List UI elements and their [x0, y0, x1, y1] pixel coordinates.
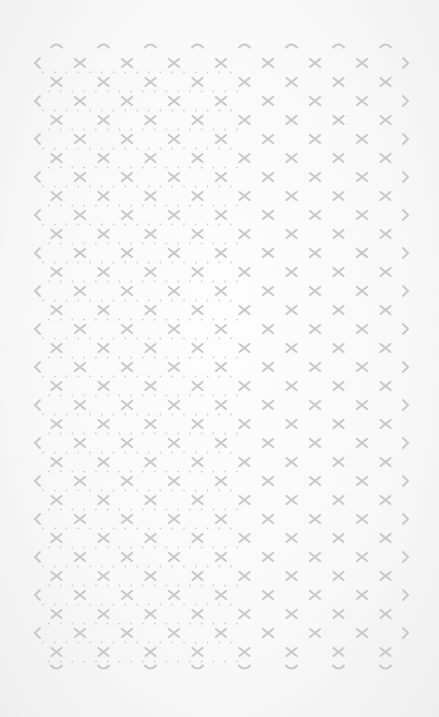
cross-mark: [75, 135, 85, 143]
cross-mark: [287, 458, 297, 466]
cross-mark: [193, 648, 203, 656]
cross-mark: [334, 192, 344, 200]
cross-mark: [310, 135, 320, 143]
cross-mark: [169, 135, 179, 143]
cross-mark: [99, 268, 109, 276]
cross-mark: [240, 306, 250, 314]
cross-mark: [146, 572, 156, 580]
cross-mark: [381, 534, 391, 542]
cross-mark: [169, 363, 179, 371]
cross-mark: [216, 363, 226, 371]
cross-mark: [240, 192, 250, 200]
cross-mark: [146, 230, 156, 238]
cross-mark: [169, 287, 179, 295]
cross-mark: [169, 97, 179, 105]
cross-mark: [381, 116, 391, 124]
cross-mark: [381, 268, 391, 276]
cross-mark: [146, 78, 156, 86]
cross-mark: [193, 154, 203, 162]
cross-mark: [240, 534, 250, 542]
cross-mark: [122, 515, 132, 523]
cross-mark: [193, 344, 203, 352]
cross-mark: [146, 610, 156, 618]
cross-mark: [287, 268, 297, 276]
cross-mark: [122, 591, 132, 599]
cross-mark: [216, 401, 226, 409]
cross-mark: [287, 496, 297, 504]
cross-mark: [310, 97, 320, 105]
cross-mark: [99, 78, 109, 86]
cross-mark: [146, 458, 156, 466]
cross-mark: [193, 534, 203, 542]
cross-mark: [310, 477, 320, 485]
cross-mark: [122, 59, 132, 67]
cross-mark: [99, 610, 109, 618]
cross-mark: [381, 458, 391, 466]
cross-mark: [287, 648, 297, 656]
cross-mark: [310, 363, 320, 371]
cross-mark: [240, 420, 250, 428]
cross-mark: [52, 344, 62, 352]
cross-mark: [75, 287, 85, 295]
cross-mark: [216, 439, 226, 447]
cross-mark: [334, 78, 344, 86]
cross-mark: [193, 192, 203, 200]
cross-mark: [381, 344, 391, 352]
cross-mark: [52, 420, 62, 428]
cross-mark: [240, 610, 250, 618]
cross-mark: [381, 192, 391, 200]
cross-mark: [52, 306, 62, 314]
cross-mark: [169, 591, 179, 599]
cross-mark: [334, 648, 344, 656]
cross-mark: [99, 192, 109, 200]
cross-mark: [287, 344, 297, 352]
cross-mark: [99, 116, 109, 124]
cross-mark: [334, 306, 344, 314]
cross-mark: [334, 496, 344, 504]
cross-mark: [357, 401, 367, 409]
cross-mark: [75, 325, 85, 333]
cross-mark: [263, 325, 273, 333]
cross-mark: [357, 97, 367, 105]
cross-mark: [357, 325, 367, 333]
cross-mark: [216, 59, 226, 67]
cross-mark: [263, 553, 273, 561]
cross-mark: [99, 420, 109, 428]
cross-mark: [381, 154, 391, 162]
cross-mark: [75, 591, 85, 599]
patterned-background: [0, 0, 439, 717]
cross-mark: [240, 496, 250, 504]
cross-mark: [334, 572, 344, 580]
cross-mark: [216, 135, 226, 143]
cross-mark: [99, 344, 109, 352]
cross-mark: [381, 306, 391, 314]
cross-mark: [240, 268, 250, 276]
cross-mark: [146, 420, 156, 428]
cross-mark: [193, 572, 203, 580]
cross-mark: [75, 401, 85, 409]
cross-mark: [287, 78, 297, 86]
cross-mark: [310, 173, 320, 181]
cross-mark: [169, 439, 179, 447]
cross-mark: [287, 420, 297, 428]
cross-mark: [122, 173, 132, 181]
cross-mark: [75, 211, 85, 219]
cross-mark: [52, 116, 62, 124]
cross-mark: [216, 325, 226, 333]
cross-mark: [122, 401, 132, 409]
cross-mark: [263, 439, 273, 447]
cross-mark: [357, 629, 367, 637]
cross-mark: [381, 572, 391, 580]
cross-mark: [381, 648, 391, 656]
cross-mark: [216, 477, 226, 485]
cross-mark: [169, 553, 179, 561]
cross-mark: [75, 59, 85, 67]
cross-mark: [216, 249, 226, 257]
cross-mark: [146, 116, 156, 124]
cross-mark: [357, 439, 367, 447]
cross-mark: [310, 591, 320, 599]
cross-mark: [193, 458, 203, 466]
cross-mark: [287, 230, 297, 238]
cross-mark: [357, 173, 367, 181]
cross-mark: [52, 78, 62, 86]
